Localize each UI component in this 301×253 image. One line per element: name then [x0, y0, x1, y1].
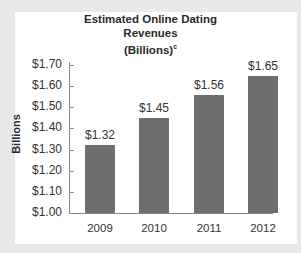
x-tick-label: 2009: [80, 222, 120, 234]
y-tick-label: $1.70: [18, 57, 62, 71]
bar-value-label: $1.65: [243, 59, 283, 73]
x-tick-label: 2010: [134, 222, 174, 234]
x-tick-label: 2012: [243, 222, 283, 234]
title-line-1: Estimated Online Dating: [0, 12, 301, 26]
bar-value-label: $1.56: [189, 78, 229, 92]
footnote-marker: c: [173, 43, 177, 50]
bar-2009: [85, 145, 115, 213]
y-tick-label: $1.00: [18, 205, 62, 219]
bar-2010: [139, 118, 169, 213]
bar-value-label: $1.32: [80, 128, 120, 142]
bar-value-label: $1.45: [134, 101, 174, 115]
y-tick: [69, 192, 74, 193]
y-tick-label: $1.40: [18, 120, 62, 134]
y-tick-label: $1.60: [18, 78, 62, 92]
title-line-2: Revenues: [0, 26, 301, 40]
y-tick: [69, 171, 74, 172]
y-tick: [69, 65, 74, 66]
y-tick: [69, 150, 74, 151]
x-axis: [69, 213, 273, 214]
y-tick-label: $1.10: [18, 184, 62, 198]
y-tick-label: $1.30: [18, 142, 62, 156]
y-tick: [69, 128, 74, 129]
y-tick-label: $1.50: [18, 99, 62, 113]
bar-2012: [248, 76, 278, 213]
x-tick-label: 2011: [189, 222, 229, 234]
y-tick: [69, 86, 74, 87]
chart-title: Estimated Online Dating Revenues (Billio…: [0, 12, 301, 57]
y-tick-label: $1.20: [18, 163, 62, 177]
title-line-3: (Billions): [124, 44, 173, 56]
y-tick: [69, 107, 74, 108]
bar-2011: [194, 95, 224, 213]
